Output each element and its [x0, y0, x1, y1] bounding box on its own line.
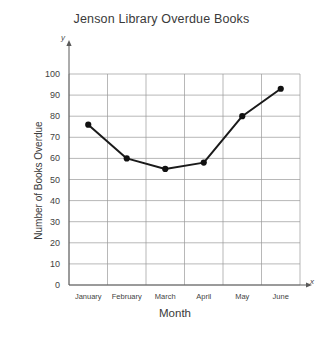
chart-figure: Jenson Library Overdue Books y x Number …	[0, 0, 323, 349]
x-tick-label: June	[251, 292, 311, 301]
x-tick-label-group: JanuaryFebruaryMarchAprilMayJune	[0, 0, 323, 349]
